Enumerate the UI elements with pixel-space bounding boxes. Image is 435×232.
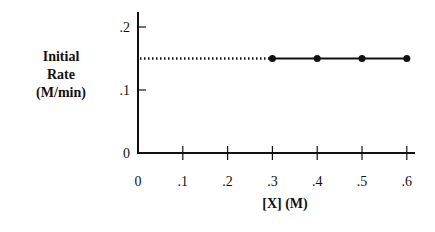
data-point-marker xyxy=(269,55,276,62)
x-tick-label: .1 xyxy=(178,174,189,189)
x-tick-label: .2 xyxy=(222,174,233,189)
x-tick-label: 0 xyxy=(135,174,142,189)
data-point-marker xyxy=(359,55,366,62)
y-tick-label: .1 xyxy=(120,83,131,98)
data-series xyxy=(140,55,410,62)
chart-plot-area: 0.1.2.3.4.5.60.1.2 xyxy=(0,0,435,232)
y-tick-label: .2 xyxy=(120,20,131,35)
y-tick-label: 0 xyxy=(123,146,130,161)
data-point-marker xyxy=(403,55,410,62)
data-point-marker xyxy=(314,55,321,62)
x-tick-label: .4 xyxy=(312,174,323,189)
x-tick-label: .5 xyxy=(357,174,368,189)
axes: 0.1.2.3.4.5.60.1.2 xyxy=(120,12,416,189)
x-tick-label: .3 xyxy=(267,174,278,189)
x-tick-label: .6 xyxy=(402,174,413,189)
